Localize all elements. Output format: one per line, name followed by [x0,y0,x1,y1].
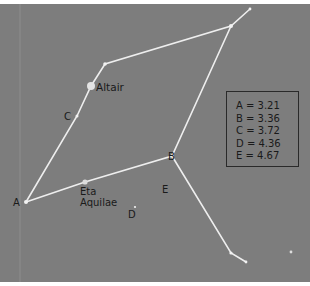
legend-row-b: B = 3.36 [236,113,298,126]
star-altair [87,82,95,90]
star-top-tip [249,8,252,11]
legend-row-e: E = 4.67 [236,150,298,163]
line-b-to-tail [172,156,246,262]
label-e: E [162,184,168,196]
star-tail-2 [245,261,248,264]
label-b: B [168,151,175,163]
star-top-junction [229,24,233,28]
label-c: C [64,111,71,123]
star-pivot [103,62,107,66]
star-chart-frame: Altair C A Eta Aquilae D B E A = 3.21 B … [0,0,310,286]
legend-row-c: C = 3.72 [236,125,298,138]
legend-row-d: D = 4.36 [236,138,298,151]
label-aquilae: Aquilae [80,197,117,209]
star-isolated [290,251,293,254]
star-eta-aquilae [82,179,87,184]
star-c [76,115,79,118]
line-a-to-top [26,9,250,202]
star-d [134,206,136,208]
star-tail-1 [229,251,232,254]
label-altair: Altair [96,81,124,93]
star-a [24,200,28,204]
magnitude-legend: A = 3.21 B = 3.36 C = 3.72 D = 4.36 E = … [226,91,299,167]
label-d: D [128,209,136,221]
label-a: A [13,197,20,209]
legend-row-a: A = 3.21 [236,100,298,113]
line-a-to-b-to-top [26,26,231,202]
